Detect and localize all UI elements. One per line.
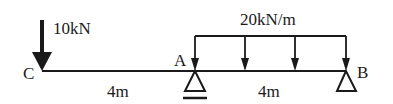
point-load-label: 10kN	[53, 19, 91, 38]
pin-support-icon	[183, 71, 207, 98]
distributed-load-icon	[191, 36, 350, 71]
distributed-load-label: 20kN/m	[240, 10, 296, 29]
dimension-label-ca: 4m	[107, 82, 129, 101]
roller-support-icon	[337, 71, 356, 91]
point-label-c: C	[23, 64, 34, 83]
point-label-a: A	[174, 51, 187, 70]
point-load-arrow-icon	[32, 20, 52, 71]
beam-diagram: 10kN C 20kN/m A B 4m 4m	[0, 0, 393, 104]
point-label-b: B	[357, 63, 368, 82]
dimension-label-ab: 4m	[258, 82, 280, 101]
